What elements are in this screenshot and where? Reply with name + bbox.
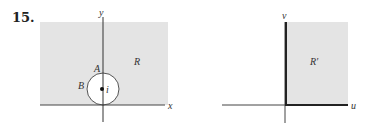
u-axis-label: u <box>351 100 356 111</box>
problem-number: 15. <box>12 10 35 25</box>
x-axis-label: x <box>167 100 173 111</box>
right-figure: v u R′ <box>222 10 356 123</box>
region-R-label: R <box>133 56 140 67</box>
y-axis-label: y <box>98 7 104 18</box>
point-B-label: B <box>78 80 84 91</box>
region-R-prime-label: R′ <box>309 56 319 67</box>
left-figure: y x R A B i <box>40 7 173 122</box>
diagram-canvas: 15. y x R A B i v u R′ <box>0 0 365 127</box>
center-point-i <box>100 87 104 91</box>
point-A-label: A <box>93 63 101 74</box>
v-axis-label: v <box>282 10 287 21</box>
center-i-label: i <box>106 84 109 95</box>
